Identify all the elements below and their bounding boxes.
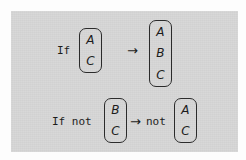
row-affirm-condition-label: If — [57, 45, 70, 56]
stack-item: A — [181, 104, 189, 116]
row-negate-result-prefix-label: not — [146, 116, 166, 127]
stack-item: A — [86, 34, 94, 46]
stack-item: C — [156, 69, 165, 81]
row-negate-condition-label: If not — [52, 116, 92, 127]
screenshot-canvas: If A C → A B C If not B C → not A C — [0, 0, 246, 160]
row-affirm-premise-box: A C — [79, 28, 102, 73]
stack-item: C — [86, 55, 95, 67]
row-negate-arrow-icon: → — [130, 115, 141, 128]
stack-item: C — [181, 125, 190, 137]
row-negate-premise-box: B C — [104, 98, 127, 143]
stack-item: B — [156, 47, 164, 59]
row-negate-result-box: A C — [174, 98, 197, 143]
stack-item: C — [111, 125, 120, 137]
row-affirm-result-box: A B C — [149, 20, 172, 87]
stack-item: A — [156, 26, 164, 38]
row-affirm-arrow-icon: → — [127, 44, 138, 57]
stack-item: B — [111, 104, 119, 116]
